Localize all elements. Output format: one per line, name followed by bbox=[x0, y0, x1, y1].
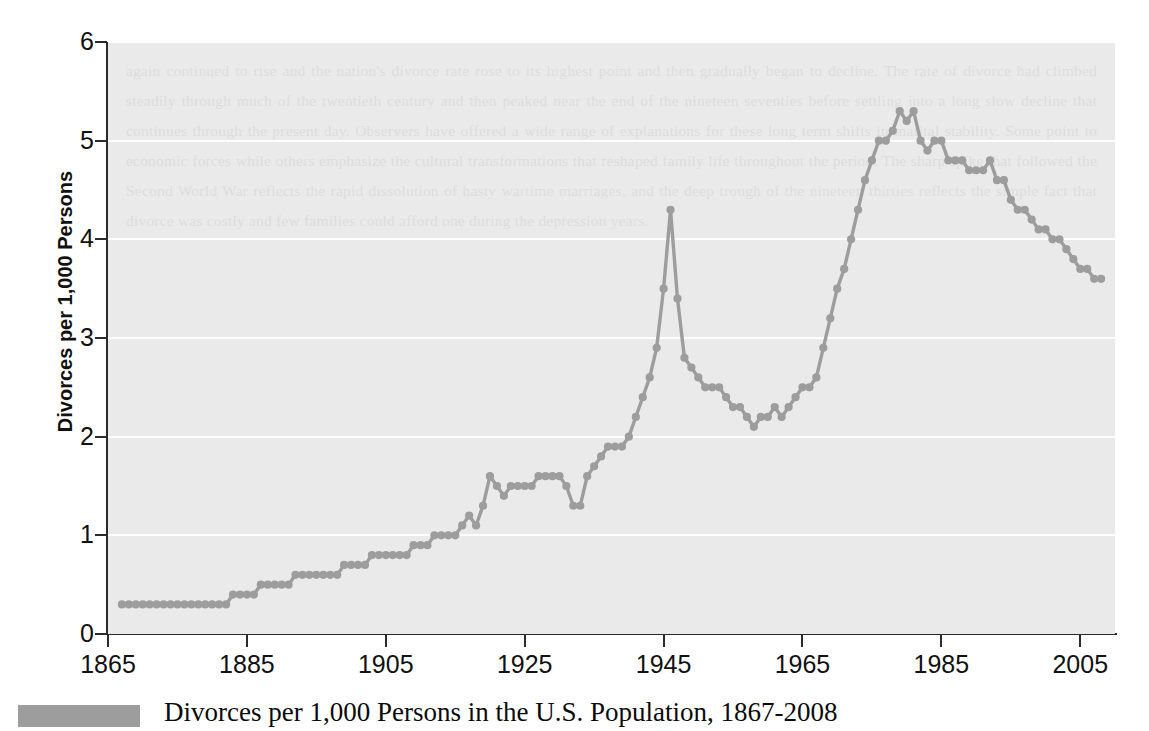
data-point-marker bbox=[1007, 196, 1015, 204]
data-point-marker bbox=[673, 294, 681, 302]
data-point-marker bbox=[284, 581, 292, 589]
data-point-marker bbox=[479, 502, 487, 510]
data-point-marker bbox=[805, 383, 813, 391]
x-tick-label-1865: 1865 bbox=[63, 652, 153, 677]
data-point-marker bbox=[493, 482, 501, 490]
x-tick-mark-2005 bbox=[1079, 635, 1081, 647]
data-point-marker bbox=[979, 166, 987, 174]
data-point-marker bbox=[986, 156, 994, 164]
chart-caption: Divorces per 1,000 Persons in the U.S. P… bbox=[0, 697, 1149, 731]
data-point-marker bbox=[736, 403, 744, 411]
data-point-marker bbox=[715, 383, 723, 391]
data-point-marker bbox=[819, 344, 827, 352]
y-tick-mark-1 bbox=[95, 534, 107, 536]
y-tick-mark-5 bbox=[95, 140, 107, 142]
data-point-marker bbox=[778, 413, 786, 421]
data-point-marker bbox=[1021, 206, 1029, 214]
x-tick-label-1925: 1925 bbox=[480, 652, 570, 677]
data-point-marker bbox=[528, 482, 536, 490]
data-point-marker bbox=[840, 265, 848, 273]
data-point-marker bbox=[868, 156, 876, 164]
data-point-marker bbox=[659, 285, 667, 293]
data-point-marker bbox=[722, 393, 730, 401]
data-point-marker bbox=[632, 413, 640, 421]
x-tick-mark-1885 bbox=[246, 635, 248, 647]
x-tick-label-1885: 1885 bbox=[202, 652, 292, 677]
data-point-marker bbox=[812, 373, 820, 381]
legend-color-swatch bbox=[18, 705, 140, 727]
data-point-marker bbox=[861, 176, 869, 184]
y-tick-mark-2 bbox=[95, 436, 107, 438]
data-point-marker bbox=[222, 600, 230, 608]
data-point-marker bbox=[403, 551, 411, 559]
data-point-marker bbox=[625, 433, 633, 441]
data-point-marker bbox=[1083, 265, 1091, 273]
data-point-marker bbox=[694, 373, 702, 381]
data-point-marker bbox=[555, 472, 563, 480]
x-tick-mark-1925 bbox=[524, 635, 526, 647]
data-point-marker bbox=[590, 462, 598, 470]
data-point-marker bbox=[465, 512, 473, 520]
caption-title: Divorces per 1,000 Persons in the U.S. P… bbox=[164, 697, 837, 727]
data-point-marker bbox=[1028, 216, 1036, 224]
x-tick-label-1965: 1965 bbox=[757, 652, 847, 677]
data-point-marker bbox=[1097, 275, 1105, 283]
x-tick-mark-1945 bbox=[663, 635, 665, 647]
data-point-marker bbox=[923, 146, 931, 154]
data-point-marker bbox=[854, 206, 862, 214]
series-line bbox=[122, 111, 1101, 604]
data-point-marker bbox=[958, 156, 966, 164]
data-point-marker bbox=[423, 541, 431, 549]
data-point-marker bbox=[646, 373, 654, 381]
y-tick-mark-3 bbox=[95, 337, 107, 339]
data-point-marker bbox=[500, 492, 508, 500]
data-point-marker bbox=[687, 364, 695, 372]
x-tick-mark-1905 bbox=[385, 635, 387, 647]
x-tick-label-1905: 1905 bbox=[341, 652, 431, 677]
data-point-marker bbox=[472, 521, 480, 529]
data-point-marker bbox=[826, 314, 834, 322]
x-tick-label-1985: 1985 bbox=[896, 652, 986, 677]
data-point-marker bbox=[653, 344, 661, 352]
data-point-marker bbox=[1041, 225, 1049, 233]
x-tick-mark-1865 bbox=[107, 635, 109, 647]
data-point-marker bbox=[771, 403, 779, 411]
data-point-marker bbox=[1000, 176, 1008, 184]
data-point-marker bbox=[882, 137, 890, 145]
data-point-marker bbox=[1055, 235, 1063, 243]
data-point-marker bbox=[576, 502, 584, 510]
data-point-marker bbox=[583, 472, 591, 480]
data-point-marker bbox=[250, 590, 258, 598]
data-point-marker bbox=[833, 285, 841, 293]
data-point-marker bbox=[1062, 245, 1070, 253]
data-point-marker bbox=[903, 117, 911, 125]
y-tick-mark-0 bbox=[95, 633, 107, 635]
data-point-marker bbox=[562, 482, 570, 490]
data-point-marker bbox=[618, 442, 626, 450]
data-point-marker bbox=[743, 413, 751, 421]
data-point-marker bbox=[889, 127, 897, 135]
data-point-marker bbox=[1069, 255, 1077, 263]
data-point-marker bbox=[680, 354, 688, 362]
data-point-marker bbox=[847, 235, 855, 243]
data-point-marker bbox=[451, 531, 459, 539]
data-point-marker bbox=[666, 206, 674, 214]
data-point-marker bbox=[750, 423, 758, 431]
plot-area: again continued to rise and the nation's… bbox=[108, 42, 1115, 634]
data-point-marker bbox=[784, 403, 792, 411]
data-point-marker bbox=[791, 393, 799, 401]
data-point-marker bbox=[361, 561, 369, 569]
y-tick-mark-6 bbox=[95, 41, 107, 43]
data-point-marker bbox=[333, 571, 341, 579]
y-tick-mark-4 bbox=[95, 238, 107, 240]
data-point-marker bbox=[597, 452, 605, 460]
x-tick-label-2005: 2005 bbox=[1035, 652, 1125, 677]
x-tick-mark-1965 bbox=[801, 635, 803, 647]
data-point-marker bbox=[937, 137, 945, 145]
data-series-divorce-rate bbox=[108, 42, 1115, 634]
x-tick-label-1945: 1945 bbox=[619, 652, 709, 677]
data-point-marker bbox=[916, 137, 924, 145]
data-point-marker bbox=[896, 107, 904, 115]
data-point-marker bbox=[639, 393, 647, 401]
